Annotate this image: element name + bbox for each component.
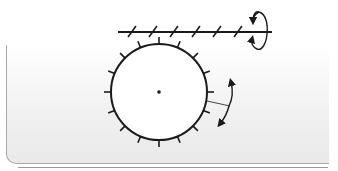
rotation-arrow-icon	[252, 12, 267, 50]
arc-arrow-icon	[207, 82, 232, 124]
worm-gear-diagram	[0, 0, 338, 171]
worm-shaft	[118, 26, 272, 37]
worm-wheel	[104, 37, 214, 147]
pivot-dot	[157, 90, 161, 94]
